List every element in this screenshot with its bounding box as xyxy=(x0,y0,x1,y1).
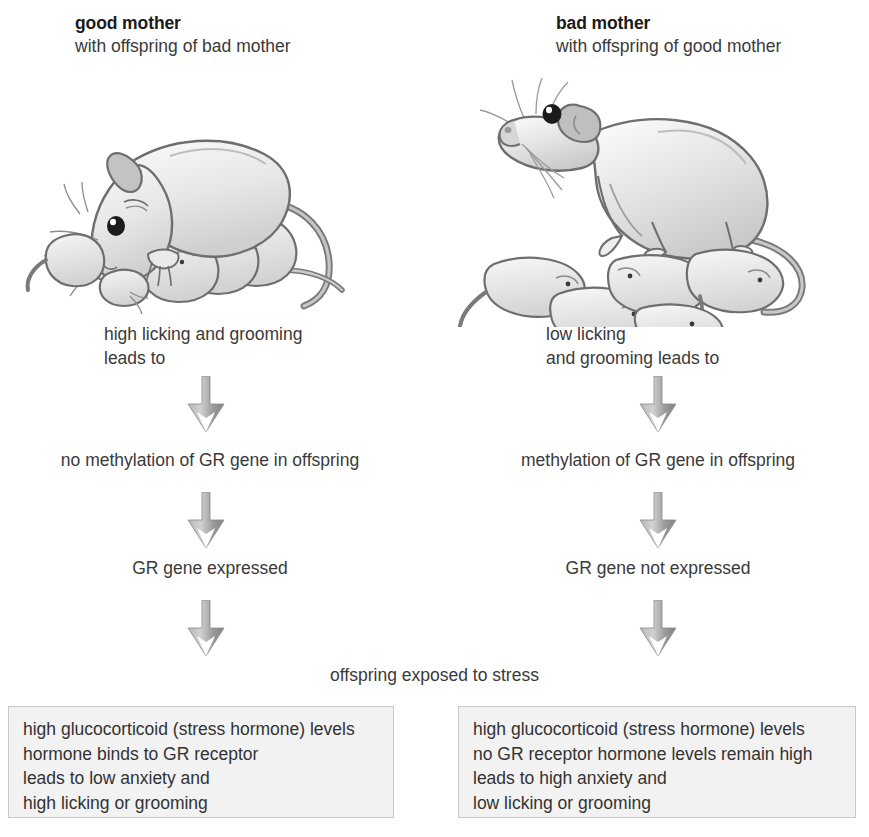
methylation-text-left: no methylation of GR gene in offspring xyxy=(0,448,420,472)
column-subtitle: with offspring of bad mother xyxy=(75,35,291,58)
down-arrow-icon xyxy=(186,600,226,660)
outcome-line: high glucocorticoid (stress hormone) lev… xyxy=(23,717,393,742)
down-arrow-icon xyxy=(638,600,678,660)
outcome-line: high glucocorticoid (stress hormone) lev… xyxy=(473,717,855,742)
expression-text-left: GR gene expressed xyxy=(0,556,420,580)
outcome-box-left: high glucocorticoid (stress hormone) lev… xyxy=(8,706,394,818)
expression-text-right: GR gene not expressed xyxy=(448,556,868,580)
outcome-line: hormone binds to GR receptor xyxy=(23,742,393,767)
outcome-box-right: high glucocorticoid (stress hormone) lev… xyxy=(458,706,856,818)
outcome-line: leads to low anxiety and xyxy=(23,766,393,791)
down-arrow-icon xyxy=(638,492,678,552)
outcome-line: no GR receptor hormone levels remain hig… xyxy=(473,742,855,767)
shared-step-text: offspring exposed to stress xyxy=(0,663,869,687)
behavior-text-left: high licking and grooming leads to xyxy=(104,322,302,370)
rat-mother-with-pups-illustration xyxy=(20,120,370,320)
column-title: good mother xyxy=(75,12,291,35)
down-arrow-icon xyxy=(638,376,678,436)
column-subtitle: with offspring of good mother xyxy=(556,35,781,58)
diagram-canvas: good mother with offspring of bad mother… xyxy=(0,0,869,837)
rat-mother-standing-over-pups-illustration xyxy=(452,72,842,327)
column-header-good-mother: good mother with offspring of bad mother xyxy=(75,12,291,58)
column-title: bad mother xyxy=(556,12,781,35)
outcome-line: leads to high anxiety and xyxy=(473,766,855,791)
behavior-text-right: low licking and grooming leads to xyxy=(546,322,719,370)
down-arrow-icon xyxy=(186,376,226,436)
outcome-line: low licking or grooming xyxy=(473,791,855,816)
outcome-line: high licking or grooming xyxy=(23,791,393,816)
column-header-bad-mother: bad mother with offspring of good mother xyxy=(556,12,781,58)
methylation-text-right: methylation of GR gene in offspring xyxy=(448,448,868,472)
down-arrow-icon xyxy=(186,492,226,552)
